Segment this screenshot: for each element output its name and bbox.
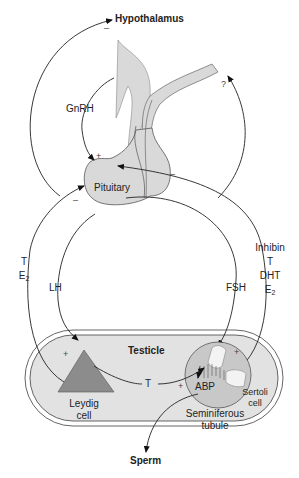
testicle-label: Testicle [128, 345, 165, 357]
gnrh-label: GnRH [66, 103, 94, 115]
gnrh-arrow [82, 78, 114, 160]
abp-label: ABP [195, 381, 215, 393]
lh-label: LH [49, 282, 62, 294]
seminiferous-tubule-label-line1: Seminiferous [180, 408, 250, 420]
pituitary-left-minus-sign: – [73, 196, 78, 205]
testosterone-label: T [145, 378, 151, 390]
dht-label: DHT [252, 270, 288, 282]
inhibin-label: Inhibin [252, 242, 288, 254]
right-feedback-e2-label: E2 [252, 284, 288, 299]
left-feedback-e2-label: E2 [17, 270, 31, 285]
hypothalamus-minus-sign: – [104, 24, 109, 33]
leydig-plus-sign: + [63, 350, 68, 359]
hypothalamus-label: Hypothalamus [115, 13, 184, 25]
leydig-cell-label-line1: Leydig [64, 398, 104, 410]
pituitary-label: Pituitary [94, 182, 130, 194]
right-feedback-t-label: T [252, 256, 288, 268]
pituitary-right-minus-sign: – [170, 170, 175, 179]
unknown-sign: ? [221, 80, 226, 89]
tubule-left-plus-sign: + [178, 382, 183, 391]
seminiferous-tubule-label-line2: tubule [180, 420, 250, 432]
leydig-cell-label-line2: cell [64, 410, 104, 422]
sperm-label: Sperm [130, 455, 161, 467]
unknown-feedback-arrow [218, 76, 245, 198]
gnrh-plus-sign: + [96, 152, 101, 161]
left-feedback-t-label: T [17, 256, 31, 268]
fsh-label: FSH [226, 282, 246, 294]
tubule-top-plus-sign: + [234, 348, 239, 357]
lh-arrow [58, 214, 95, 340]
fsh-arrow [126, 197, 236, 346]
